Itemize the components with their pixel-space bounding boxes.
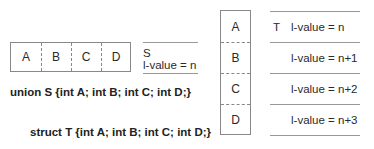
struct-lvalue-a: l-value = n — [291, 21, 344, 33]
struct-lvalue-b: l-value = n+1 — [291, 52, 358, 64]
struct-lvalue-c: l-value = n+2 — [291, 83, 358, 95]
struct-label-line — [270, 135, 360, 136]
struct-label-line — [270, 11, 360, 12]
union-field-b: B — [41, 43, 71, 71]
struct-field-d: D — [221, 104, 250, 135]
union-field-a: A — [11, 43, 41, 71]
union-label-bottom-line — [143, 73, 198, 74]
union-label-top-line — [143, 42, 198, 43]
union-declaration: union S {int A; int B; int C; int D;} — [10, 86, 191, 98]
struct-field-c: C — [221, 73, 250, 104]
struct-field-a: A — [221, 11, 250, 42]
union-name-label: S — [143, 47, 151, 59]
struct-label-line — [270, 73, 360, 74]
union-field-c: C — [71, 43, 101, 71]
union-memory-box: A B C D — [10, 42, 131, 72]
struct-label-line — [270, 104, 360, 105]
struct-lvalue-d: l-value = n+3 — [291, 114, 358, 126]
struct-memory-box: A B C D — [220, 10, 251, 135]
struct-declaration: struct T {int A; int B; int C; int D;} — [30, 126, 211, 138]
struct-field-b: B — [221, 42, 250, 73]
struct-name-label: T — [273, 21, 280, 33]
struct-label-line — [270, 42, 360, 43]
union-lvalue-label: l-value = n — [143, 59, 196, 71]
union-field-d: D — [101, 43, 131, 71]
